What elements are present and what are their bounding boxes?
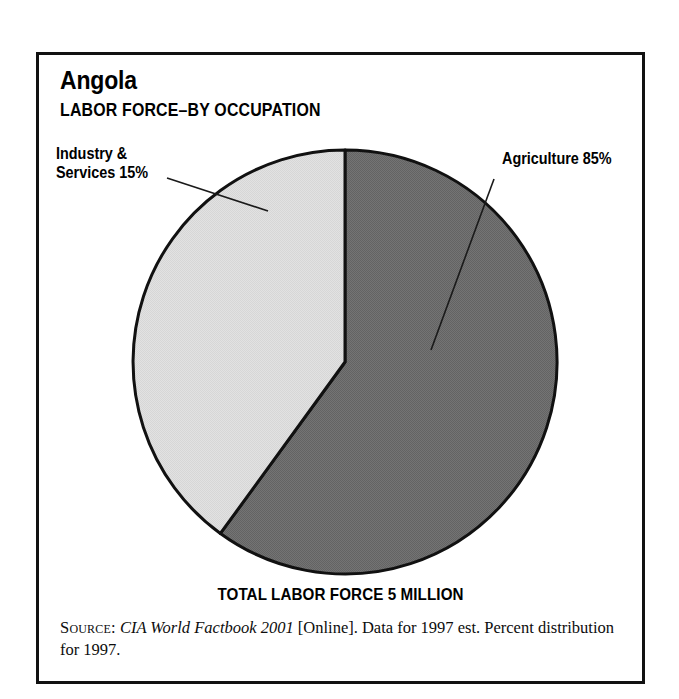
figure-frame: Angola LABOR FORCE–BY OCCUPATION (36, 52, 645, 684)
slice-label-industry: Industry & Services 15% (56, 145, 148, 183)
source-note: Source: CIA World Factbook 2001 [Online]… (60, 617, 626, 661)
pie-slice-industry (133, 150, 345, 533)
chart-subtitle: LABOR FORCE–BY OCCUPATION (60, 99, 421, 121)
slice-label-agriculture: Agriculture 85% (502, 150, 612, 169)
source-publication: CIA World Factbook 2001 (120, 618, 294, 637)
leader-line-industry (167, 178, 268, 211)
chart-header: Angola LABOR FORCE–BY OCCUPATION (60, 67, 480, 121)
page-title: Angola (60, 67, 446, 95)
pie-slice-agriculture (220, 150, 557, 574)
source-label: Source: (60, 618, 116, 637)
total-labor-force-caption: TOTAL LABOR FORCE 5 MILLION (63, 585, 618, 604)
leader-line-agriculture (431, 179, 494, 350)
